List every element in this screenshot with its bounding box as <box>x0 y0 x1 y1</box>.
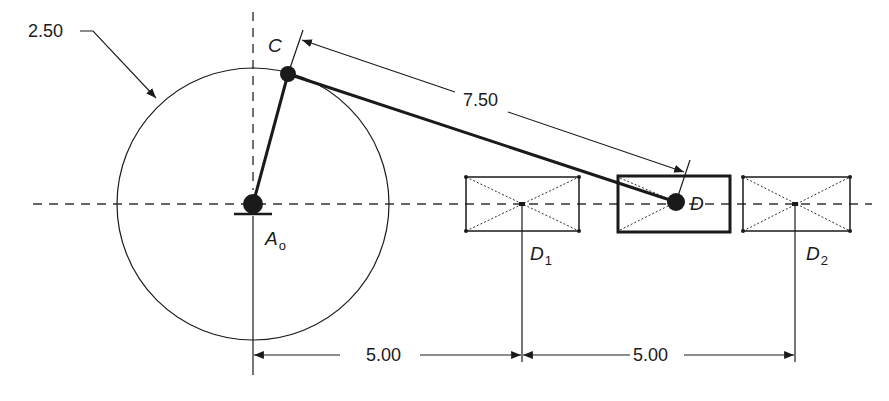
crank-link <box>253 74 288 204</box>
point-d1-label: D1 <box>530 244 552 267</box>
radius-leader <box>80 31 156 98</box>
point-d-label: D <box>690 194 704 213</box>
diagram-graphics <box>0 0 889 401</box>
dim-right-label: 5.00 <box>630 346 671 364</box>
mechanism-diagram: 2.50 7.50 5.00 5.00 C D Ao D1 D2 <box>0 0 889 401</box>
coupler-length-label: 7.50 <box>460 91 501 109</box>
coupler-dim-line-right <box>508 112 684 172</box>
point-c-label: C <box>268 36 282 55</box>
extension-tick-d <box>676 160 690 202</box>
d2-subscript: 2 <box>821 253 828 268</box>
point-d2-label: D2 <box>806 244 828 267</box>
crank-radius-label: 2.50 <box>28 22 63 40</box>
pivot-a0-base: A <box>265 228 278 249</box>
d1-base: D <box>530 243 544 264</box>
d1-subscript: 1 <box>545 253 552 268</box>
coupler-dim-line-left <box>302 40 455 92</box>
dim-left-label: 5.00 <box>363 346 404 364</box>
pivot-a0-subscript: o <box>279 238 286 253</box>
extension-tick-c <box>288 30 303 74</box>
d2-base: D <box>806 243 820 264</box>
pivot-a0 <box>243 194 263 214</box>
pivot-a0-label: Ao <box>265 229 286 252</box>
